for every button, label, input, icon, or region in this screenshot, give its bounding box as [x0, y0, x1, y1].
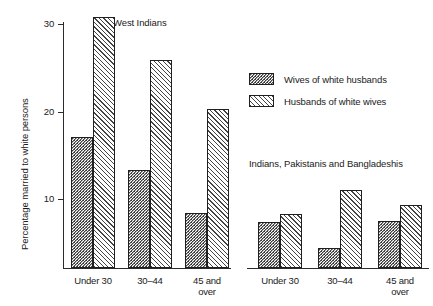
y-axis-line — [63, 22, 64, 269]
cat-label-panel2-45over: 45 and over — [365, 275, 433, 297]
bar-panel1-under30-wives — [71, 137, 93, 268]
bar-panel1-30to44-wives — [128, 170, 150, 268]
y-tick-10 — [58, 199, 64, 200]
y-tick-30 — [58, 24, 64, 25]
bar-panel1-45over-husbands — [207, 109, 229, 268]
bar-panel2-45over-husbands — [400, 205, 422, 268]
bar-panel2-30to44-wives — [318, 248, 340, 268]
y-tick-20 — [58, 112, 64, 113]
bar-panel1-45over-wives — [185, 213, 207, 268]
legend-label-wives: Wives of white husbands — [284, 73, 387, 86]
bar-panel2-under30-husbands — [280, 214, 302, 268]
legend-swatch-dotted — [249, 73, 274, 85]
x-axis-line-panel2 — [247, 268, 429, 269]
cat-label-panel1-45over: 45 and over — [172, 275, 242, 297]
bar-panel1-30to44-husbands — [150, 60, 172, 268]
panel-title-west-indians: West Indians — [113, 17, 167, 28]
y-tick-label-30: 30 — [24, 19, 54, 29]
bar-panel1-under30-husbands — [93, 17, 115, 268]
y-axis-title: Percentage married to white persons — [19, 98, 30, 250]
legend-label-husbands: Husbands of white wives — [284, 95, 386, 108]
chart-container: 30 20 10 Percentage married to white per… — [0, 0, 433, 306]
bar-panel2-45over-wives — [378, 221, 400, 268]
bar-panel2-30to44-husbands — [340, 190, 362, 268]
legend-swatch-hatched — [249, 95, 274, 107]
panel-title-indians-pakistanis-bangladeshis: Indians, Pakistanis and Bangladeshis — [249, 158, 403, 169]
x-axis-line-panel1 — [63, 268, 231, 269]
bar-panel2-under30-wives — [258, 222, 280, 268]
